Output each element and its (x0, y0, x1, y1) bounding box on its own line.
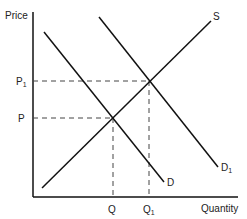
supply-curve-s (42, 21, 211, 188)
demand-label: D (167, 177, 174, 188)
supply-demand-diagram: Price Quantity S D D1 P1 P Q Q1 (0, 0, 247, 219)
y-axis-label: Price (5, 10, 28, 21)
quantity-q1-label: Q1 (143, 204, 155, 216)
quantity-q-label: Q (108, 204, 116, 215)
x-axis-label: Quantity (201, 203, 238, 214)
demand-shifted-label: D1 (221, 162, 232, 174)
price-p-label: P (18, 113, 25, 124)
demand-curve-d (44, 32, 164, 182)
supply-label: S (213, 11, 220, 22)
price-p1-label: P1 (16, 76, 27, 88)
demand-curve-d1 (99, 17, 218, 167)
